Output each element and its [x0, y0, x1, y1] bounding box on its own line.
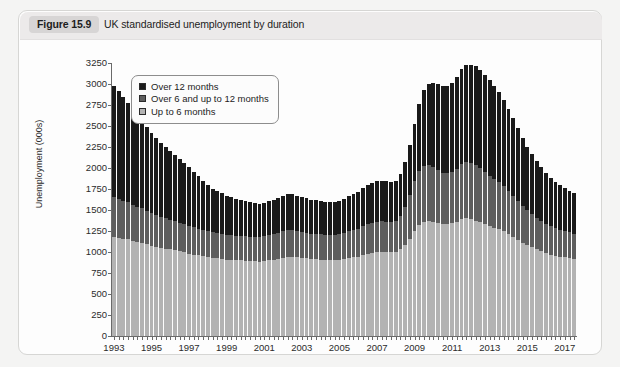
bar-segment	[286, 194, 290, 230]
bar-segment	[126, 239, 130, 336]
bar-segment	[145, 127, 149, 211]
x-axis-tick-mark	[184, 336, 185, 340]
x-axis-tick-label: 2009	[395, 342, 435, 353]
bar-column	[539, 167, 543, 336]
y-axis-tick-label: 1500	[71, 205, 107, 215]
x-axis-tick-mark	[203, 336, 204, 340]
bar-segment	[229, 260, 233, 336]
x-axis-tick-label: 1995	[132, 342, 172, 353]
bar-segment	[488, 80, 492, 176]
bar-segment	[441, 173, 445, 225]
bar-segment	[337, 260, 341, 336]
bar-segment	[187, 167, 191, 226]
bar-column	[399, 174, 403, 336]
x-axis-tick-mark	[137, 336, 138, 340]
bar-segment	[488, 176, 492, 226]
bar-segment	[408, 195, 412, 239]
legend-swatch-up-to-6-months	[139, 108, 146, 115]
bar-column	[319, 201, 323, 336]
bar-column	[469, 65, 473, 336]
bar-column	[361, 188, 365, 336]
bar-column	[394, 181, 398, 336]
bar-column	[305, 198, 309, 336]
x-axis-tick-label: 1993	[94, 342, 134, 353]
bar-segment	[460, 219, 464, 336]
bar-segment	[380, 252, 384, 336]
bar-segment	[337, 234, 341, 260]
x-axis-tick-mark	[574, 336, 575, 340]
bar-segment	[539, 167, 543, 221]
x-axis-tick-mark	[189, 336, 190, 340]
bar-segment	[140, 208, 144, 242]
bar-column	[328, 202, 332, 336]
x-axis-tick-mark	[297, 336, 298, 340]
bar-segment	[572, 193, 576, 233]
x-axis-tick-mark	[396, 336, 397, 340]
y-axis-tick-label: 2250	[71, 142, 107, 152]
bar-segment	[572, 259, 576, 336]
bar-segment	[229, 235, 233, 260]
bar-segment	[295, 196, 299, 231]
bar-column	[445, 86, 449, 336]
bar-segment	[244, 201, 248, 236]
bar-column	[502, 100, 506, 336]
bar-column	[300, 197, 304, 336]
bar-segment	[300, 197, 304, 232]
y-axis-tick-label: 1750	[71, 184, 107, 194]
bar-column	[455, 77, 459, 336]
x-axis-tick-mark	[353, 336, 354, 340]
bar-segment	[117, 199, 121, 238]
bar-column	[558, 185, 562, 336]
bar-segment	[356, 192, 360, 229]
bar-segment	[244, 261, 248, 336]
bar-column	[262, 203, 266, 336]
legend-item: Up to 6 months	[139, 105, 269, 118]
bar-segment	[384, 222, 388, 252]
x-axis-tick-label: 2011	[432, 342, 472, 353]
x-axis-tick-label: 1997	[169, 342, 209, 353]
bar-column	[258, 204, 262, 336]
bar-segment	[352, 230, 356, 257]
bar-segment	[384, 252, 388, 336]
bar-segment	[173, 155, 177, 221]
y-axis-tick-label: 2500	[71, 121, 107, 131]
bar-segment	[375, 222, 379, 253]
bar-column	[389, 182, 393, 336]
bar-segment	[483, 224, 487, 336]
bar-column	[112, 86, 116, 336]
bar-segment	[563, 188, 567, 231]
bar-segment	[258, 262, 262, 336]
bar-segment	[309, 259, 313, 336]
x-axis-tick-mark	[372, 336, 373, 340]
x-axis-tick-mark	[457, 336, 458, 340]
bar-segment	[192, 227, 196, 254]
x-axis-tick-mark	[424, 336, 425, 340]
bar-column	[197, 176, 201, 336]
bar-segment	[197, 176, 201, 228]
x-axis-tick-mark	[123, 336, 124, 340]
bar-segment	[295, 231, 299, 257]
bar-segment	[521, 206, 525, 243]
bar-column	[220, 193, 224, 336]
x-axis-tick-label: 2015	[507, 342, 547, 353]
figure-number-badge: Figure 15.9	[29, 16, 99, 33]
bar-segment	[154, 138, 158, 215]
bar-segment	[399, 174, 403, 216]
bar-segment	[173, 221, 177, 250]
bar-segment	[516, 128, 520, 201]
bar-column	[135, 115, 139, 336]
bar-segment	[394, 181, 398, 221]
bar-column	[535, 161, 539, 336]
bar-segment	[276, 233, 280, 259]
bar-segment	[225, 260, 229, 336]
figure-title-bar: Figure 15.9 UK standardised unemployment…	[20, 12, 602, 40]
bar-segment	[445, 173, 449, 224]
bar-segment	[135, 242, 139, 336]
x-axis-tick-mark	[241, 336, 242, 340]
bar-segment	[366, 224, 370, 254]
bar-segment	[469, 65, 473, 164]
bar-segment	[164, 249, 168, 336]
bar-segment	[502, 231, 506, 336]
bar-segment	[168, 151, 172, 220]
bar-segment	[182, 252, 186, 336]
